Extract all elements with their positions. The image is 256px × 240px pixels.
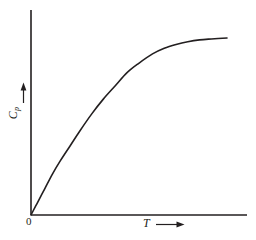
y-axis-label-symbol: C (6, 111, 20, 119)
y-axis-arrow-icon (21, 83, 27, 104)
y-axis-label-subscript: p (12, 107, 21, 111)
y-axis-label: Cp (7, 107, 21, 119)
heat-capacity-curve (31, 38, 227, 215)
x-axis-label: T (143, 217, 150, 229)
chart-figure: 0 T Cp (0, 0, 256, 240)
origin-label: 0 (26, 216, 32, 227)
plot-canvas (0, 0, 256, 240)
x-axis-arrow-icon (156, 222, 185, 228)
